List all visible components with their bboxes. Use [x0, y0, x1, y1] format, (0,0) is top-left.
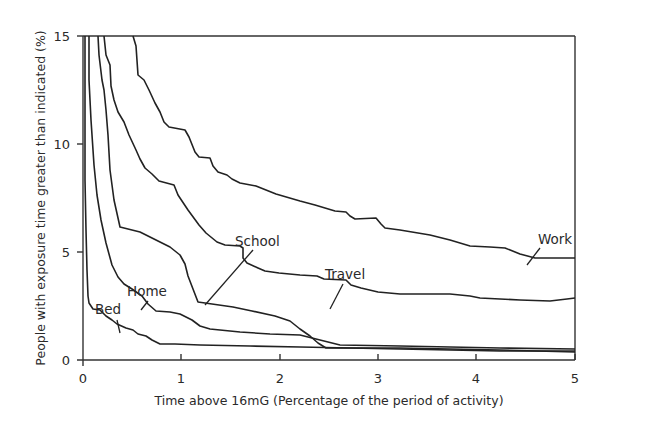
leader-bed [117, 320, 120, 333]
y-tick-label: 0 [62, 353, 70, 368]
x-tick-label: 4 [472, 371, 480, 386]
exposure-time-chart: 15 10 5 0 People with exposure time grea… [0, 0, 661, 434]
x-axis-title: Time above 16mG (Percentage of the perio… [153, 393, 503, 408]
y-axis-title: People with exposure time greater than i… [33, 30, 48, 365]
y-tick-label: 10 [53, 137, 70, 152]
series-bed-line [85, 36, 575, 351]
plot-frame [77, 36, 575, 366]
leader-travel [330, 284, 343, 309]
label-school: School [235, 233, 280, 249]
x-tick-label: 0 [79, 371, 87, 386]
leader-school [205, 250, 253, 305]
x-tick-label: 5 [571, 371, 579, 386]
label-travel: Travel [324, 266, 365, 282]
series-labels: Work Travel School Home Bed [95, 231, 572, 333]
label-bed: Bed [95, 301, 121, 317]
series-travel-line [104, 36, 575, 301]
series-curves [85, 36, 575, 352]
leader-home [141, 301, 148, 310]
x-tick-label: 1 [177, 371, 185, 386]
y-tick-label: 5 [62, 245, 70, 260]
label-home: Home [127, 283, 167, 299]
label-work: Work [538, 231, 572, 247]
x-tick-label: 2 [276, 371, 284, 386]
x-axis: 0 1 2 3 4 5 Time above 16mG (Percentage … [79, 354, 579, 408]
y-axis: 15 10 5 0 People with exposure time grea… [33, 29, 83, 368]
y-tick-label: 15 [53, 29, 70, 44]
series-school-line [98, 36, 575, 352]
x-tick-label: 3 [374, 371, 382, 386]
series-home-line [89, 36, 575, 349]
